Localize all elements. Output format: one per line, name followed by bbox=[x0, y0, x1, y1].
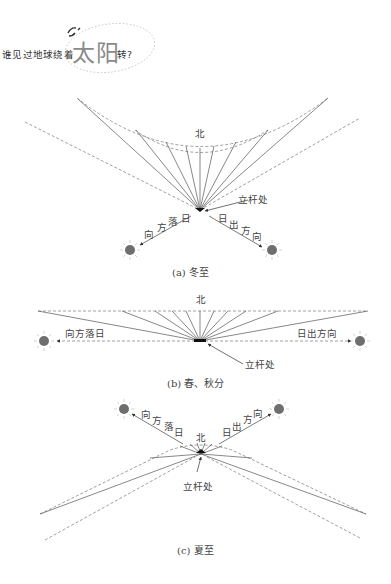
sun-icon-west bbox=[120, 240, 140, 260]
sunset-label-3: 日 bbox=[174, 427, 184, 438]
sun-icon-east bbox=[350, 331, 370, 351]
sunrise-label-3: 向 bbox=[252, 231, 262, 242]
sunrise-label-2: 方 bbox=[243, 414, 253, 425]
north-label: 北 bbox=[195, 128, 205, 139]
sunrise-label-1: 出 bbox=[232, 421, 242, 432]
sunrise-label-1: 出 bbox=[229, 219, 239, 230]
sunrise-label: 日出方向 bbox=[297, 328, 337, 339]
shadow-lines bbox=[40, 443, 366, 514]
diagram-summer-solstice: 北 向 方 落 日 日 出 方 向 立杆处 bbox=[40, 399, 366, 540]
caption-a: (a) 冬至 bbox=[172, 264, 209, 279]
caption-b: (b) 春、秋分 bbox=[167, 375, 224, 390]
diagram-winter-solstice: 北 立杆处 向 方 落 日 日 出 方 向 bbox=[25, 98, 360, 260]
pole-base-icon bbox=[194, 339, 206, 342]
sunrise-label-0: 日 bbox=[218, 213, 228, 224]
diagram-equinox: 北 向方落日 日出方向 立杆处 bbox=[34, 294, 370, 370]
sun-icon-east bbox=[269, 399, 289, 419]
sunset-label-0: 向 bbox=[144, 229, 154, 240]
shadow-lines bbox=[78, 98, 328, 210]
sunset-label-0: 向 bbox=[141, 409, 151, 420]
sun-icon-west bbox=[34, 331, 54, 351]
north-label: 北 bbox=[196, 432, 206, 443]
sunrise-label-3: 向 bbox=[253, 408, 263, 419]
sunset-label-3: 日 bbox=[181, 213, 191, 224]
sun-icon-west bbox=[114, 399, 134, 419]
pole-label: 立杆处 bbox=[238, 194, 268, 205]
sun-icon-east bbox=[262, 240, 282, 260]
dashed-curves bbox=[40, 445, 366, 540]
sunrise-label-2: 方 bbox=[241, 225, 251, 236]
sunset-label-2: 落 bbox=[168, 216, 178, 227]
north-label: 北 bbox=[196, 294, 206, 305]
caption-c: (c) 夏至 bbox=[177, 542, 214, 557]
pole-base-icon bbox=[195, 208, 205, 212]
sunset-label-2: 落 bbox=[164, 421, 174, 432]
sunrise-label-0: 日 bbox=[222, 427, 232, 438]
pole-label: 立杆处 bbox=[183, 481, 213, 492]
pole-pointer bbox=[208, 344, 243, 364]
sun-shadow-diagrams: 北 立杆处 向 方 落 日 日 出 方 向 北 bbox=[0, 0, 391, 584]
pole-label: 立杆处 bbox=[245, 359, 275, 370]
dashed-curves bbox=[25, 98, 360, 210]
sunset-label-1: 方 bbox=[157, 222, 167, 233]
pole-pointer bbox=[197, 457, 201, 472]
sunset-label: 向方落日 bbox=[65, 328, 105, 339]
sunset-label-1: 方 bbox=[152, 415, 162, 426]
